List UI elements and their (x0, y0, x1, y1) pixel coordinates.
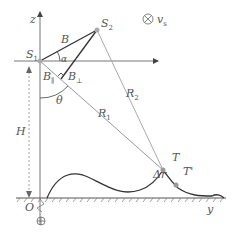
height-label: H (16, 126, 26, 137)
terrain-profile (47, 170, 224, 198)
r1-label: R1 (98, 108, 111, 122)
s2-point (95, 28, 100, 33)
target-prime-point (174, 183, 179, 188)
target-prime-label: T' (183, 166, 193, 177)
s1-point (38, 59, 43, 64)
insar-geometry-diagram: z S1 S2 B α B∥ B⊥ θ R1 R2 H O T T' Δr y … (0, 0, 242, 239)
origin-label: O (25, 202, 34, 213)
s1-label: S1 (26, 49, 38, 63)
velocity-label: vs (157, 14, 167, 28)
delta-r-label: Δr (153, 169, 166, 180)
y-axis-label: y (207, 204, 213, 215)
b-perp-label: B⊥ (68, 71, 83, 85)
x-axis-into-page-icon (37, 217, 45, 225)
theta-label: θ (56, 95, 63, 106)
velocity-into-page-icon (143, 14, 153, 24)
diagram-canvas (0, 0, 242, 239)
alpha-arc (57, 51, 60, 61)
baseline-label: B (61, 34, 69, 45)
alpha-label: α (61, 55, 67, 64)
s2-label: S2 (101, 18, 113, 32)
right-angle-mark (58, 73, 64, 76)
target-label: T (172, 152, 179, 163)
z-axis-label: z (30, 14, 36, 25)
r2-label: R2 (126, 88, 139, 102)
ground-hatching (17, 198, 223, 202)
theta-arc (40, 86, 68, 98)
b-parallel-label: B∥ (43, 71, 54, 85)
